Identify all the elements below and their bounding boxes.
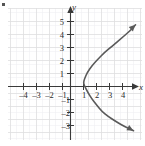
x-axis-label: x [138,82,143,92]
y-tick-label--1: –1 [61,95,71,105]
y-axis-label: y [71,2,76,12]
y-tick-label-2: 2 [60,56,64,66]
x-tick-label--2: –2 [44,90,54,100]
y-tick-label-5: 5 [60,17,64,27]
y-tick-label-3: 3 [60,43,64,53]
x-tick-label--3: –3 [31,90,41,100]
y-tick-label-1: 1 [60,69,64,79]
x-tick-label--4: –4 [18,90,28,100]
x-tick-label-2: 2 [95,90,99,100]
x-tick-label-1: 1 [82,90,86,100]
coordinate-plane: –4 –3 –2 –1 1 2 3 4 5 4 3 2 1 –1 –2 –3 y… [0,0,145,146]
graph-figure: –4 –3 –2 –1 1 2 3 4 5 4 3 2 1 –1 –2 –3 y… [0,0,145,146]
axis-names: y x [71,2,143,92]
y-tick-label--3: –3 [61,121,71,131]
x-tick-label-3: 3 [108,90,112,100]
y-tick-label--2: –2 [61,108,71,118]
grid-lines [8,8,142,140]
x-tick-label-4: 4 [121,90,126,100]
x-axis-arrow-icon [132,83,139,89]
